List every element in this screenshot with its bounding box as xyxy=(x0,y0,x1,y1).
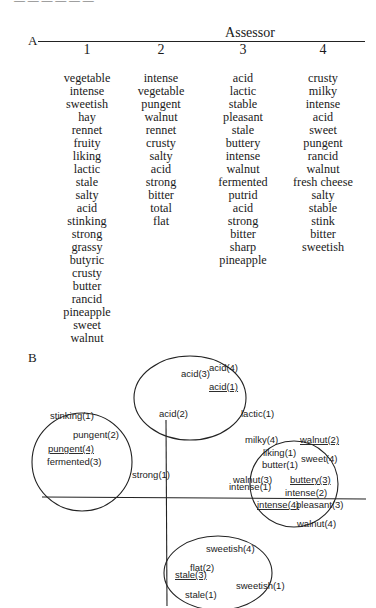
attribute-label: sweet(4) xyxy=(301,453,337,464)
attribute-label: intense(2) xyxy=(285,487,327,498)
attribute-label: intense(4) xyxy=(257,499,299,510)
attribute-label: walnut(4) xyxy=(296,518,336,529)
attribute-label: stale(3) xyxy=(175,569,207,580)
attribute-label: acid(3) xyxy=(181,368,210,379)
attribute-label: sweetish(1) xyxy=(236,580,285,591)
attribute-label: buttery(3) xyxy=(290,474,331,485)
attribute-label: acid(2) xyxy=(159,408,188,419)
attribute-label: pungent(4) xyxy=(48,443,94,454)
attribute-label: butter(1) xyxy=(262,459,298,470)
attribute-label: fermented(3) xyxy=(47,456,101,467)
attribute-label: milky(4) xyxy=(245,434,278,445)
attribute-label: pungent(2) xyxy=(73,429,119,440)
attribute-label: intense(1) xyxy=(229,481,271,492)
consensus-map: stinking(1)pungent(2)pungent(4)fermented… xyxy=(0,0,376,608)
attribute-label: acid(4) xyxy=(209,362,238,373)
attribute-label: liking(1) xyxy=(263,447,296,458)
vertical-axis xyxy=(166,420,167,606)
attribute-label: stinking(1) xyxy=(50,410,94,421)
attribute-label: pleasant(3) xyxy=(296,499,344,510)
attribute-label: strong(1) xyxy=(132,469,170,480)
attribute-label: acid(1) xyxy=(209,381,238,392)
attribute-label: walnut(2) xyxy=(299,434,339,445)
attribute-label: lactic(1) xyxy=(241,408,274,419)
attribute-label: stale(1) xyxy=(185,589,217,600)
attribute-label: sweetish(4) xyxy=(206,543,255,554)
